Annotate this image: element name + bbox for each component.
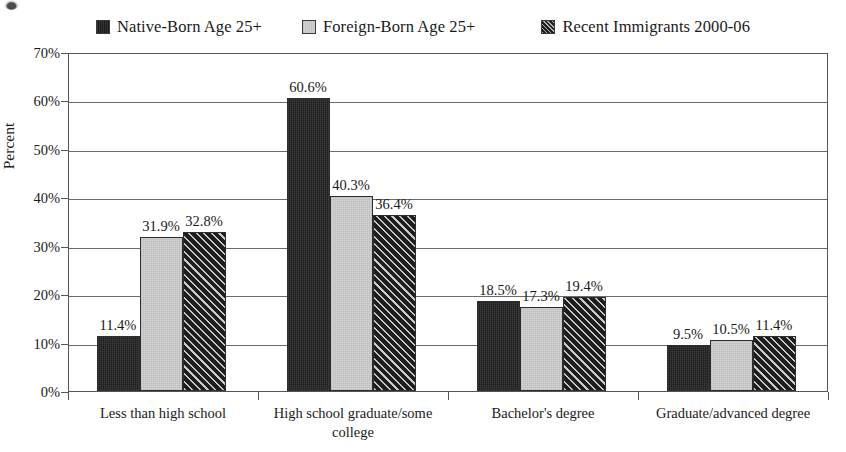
bar[interactable] [373, 215, 416, 391]
legend-item: Foreign-Born Age 25+ [302, 17, 475, 37]
x-tick-mark [828, 392, 829, 400]
x-category-label: Graduate/advanced degree [632, 404, 834, 423]
solid-black-swatch [96, 20, 110, 34]
x-tick-mark [68, 392, 69, 400]
bar-value-label: 32.8% [174, 213, 235, 230]
bar-value-label: 19.4% [554, 278, 615, 295]
bar[interactable] [753, 336, 796, 391]
bar[interactable] [477, 301, 520, 391]
y-tick-label: 50% [8, 141, 60, 158]
light-gray-swatch [302, 20, 316, 34]
y-tick-mark [61, 198, 68, 199]
bar-value-label: 11.4% [744, 317, 805, 334]
y-tick-label: 10% [8, 335, 60, 352]
bar-value-label: 36.4% [364, 196, 425, 213]
hatched-swatch [541, 20, 555, 34]
y-tick-mark [61, 344, 68, 345]
y-tick-mark [61, 295, 68, 296]
y-tick-label: 40% [8, 190, 60, 207]
bar-group: 11.4%31.9%32.8% [69, 54, 259, 391]
bar-group: 9.5%10.5%11.4% [639, 54, 829, 391]
legend-item: Recent Immigrants 2000-06 [541, 17, 750, 37]
x-tick-mark [258, 392, 259, 400]
x-tick-mark [448, 392, 449, 400]
x-category-label: High school graduate/some college [252, 404, 454, 442]
bar-chart: Native-Born Age 25+Foreign-Born Age 25+R… [0, 0, 846, 452]
x-tick-mark [638, 392, 639, 400]
bar[interactable] [287, 98, 330, 391]
bar-value-label: 40.3% [321, 177, 382, 194]
legend-item-label: Native-Born Age 25+ [117, 17, 262, 37]
bar[interactable] [520, 307, 563, 391]
bar[interactable] [667, 345, 710, 391]
y-tick-mark [61, 101, 68, 102]
y-tick-mark [61, 150, 68, 151]
bar-value-label: 60.6% [278, 79, 339, 96]
chart-legend: Native-Born Age 25+Foreign-Born Age 25+R… [0, 14, 846, 40]
bar-group: 18.5%17.3%19.4% [449, 54, 639, 391]
y-tick-label: 60% [8, 93, 60, 110]
bar-group: 60.6%40.3%36.4% [259, 54, 449, 391]
bar[interactable] [563, 297, 606, 391]
y-tick-label: 30% [8, 238, 60, 255]
scan-artifact [4, 0, 19, 10]
legend-item-label: Foreign-Born Age 25+ [323, 17, 475, 37]
y-tick-mark [61, 392, 68, 393]
bar[interactable] [140, 237, 183, 391]
legend-item-label: Recent Immigrants 2000-06 [562, 17, 750, 37]
x-category-label: Bachelor's degree [442, 404, 644, 423]
y-tick-label: 20% [8, 287, 60, 304]
y-tick-label: 0% [8, 384, 60, 401]
y-tick-mark [61, 247, 68, 248]
y-tick-mark [61, 53, 68, 54]
bar[interactable] [330, 196, 373, 391]
plot-area: 11.4%31.9%32.8%60.6%40.3%36.4%18.5%17.3%… [68, 53, 828, 392]
bar[interactable] [710, 340, 753, 391]
legend-item: Native-Born Age 25+ [96, 17, 262, 37]
x-category-label: Less than high school [62, 404, 264, 423]
bar[interactable] [183, 232, 226, 391]
bar[interactable] [97, 336, 140, 391]
y-tick-label: 70% [8, 45, 60, 62]
